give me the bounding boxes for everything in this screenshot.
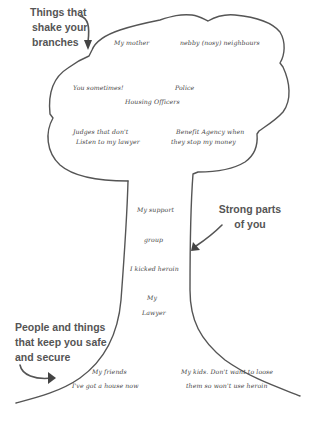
trunk-item-lawyer-line2: Lawyer [142, 309, 166, 316]
trunk-item-support-line2: group [144, 236, 163, 243]
roots-arrow [20, 365, 52, 378]
canopy-item-police: Police [175, 84, 194, 91]
canopy-item-my-mother: My mother [114, 39, 149, 46]
root-item-kids-line1: My kids. Don't want to loose [181, 368, 273, 375]
canopy-item-benefit-line2: they stop my money [171, 138, 236, 145]
callout-trunk-line: Strong parts [210, 202, 290, 217]
callout-roots-line: that keep you safe [15, 335, 107, 350]
canopy-item-benefit-line1: Benefit Agency when [176, 128, 244, 135]
canopy-item-judges-line2: Listen to my lawyer [76, 138, 140, 145]
root-item-friends: My friends [92, 368, 127, 375]
callout-branches-line: branches [32, 35, 87, 50]
callout-branches: Things that shake your branches [30, 5, 87, 50]
callout-trunk: Strong parts of you [210, 202, 290, 232]
trunk-item-kicked-heroin: I kicked heroin [130, 265, 179, 272]
callout-roots-line: and secure [15, 350, 107, 365]
canopy-item-nosy-neighbours: nebby (nosy) neighbours [180, 39, 260, 46]
callout-trunk-line: of you [210, 217, 290, 232]
root-item-house: I've got a house now [72, 382, 139, 389]
trunk-item-support-line1: My support [137, 206, 174, 213]
canopy-item-housing-officers: Housing Officers [125, 98, 180, 105]
roots-arrowhead [48, 372, 56, 384]
root-item-kids-line2: them so won't use heroin [186, 382, 267, 389]
canopy-item-judges-line1: Judges that don't [73, 128, 128, 135]
callout-branches-line: shake your [32, 20, 87, 35]
canopy-item-you-sometimes: You sometimes! [73, 84, 124, 91]
trunk-item-lawyer-line1: My [147, 294, 157, 301]
callout-roots: People and things that keep you safe and… [15, 320, 107, 365]
callout-branches-line: Things that [30, 5, 87, 20]
callout-roots-line: People and things [15, 320, 107, 335]
